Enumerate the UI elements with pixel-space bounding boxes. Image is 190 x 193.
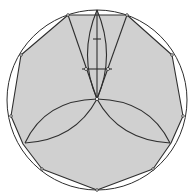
chord-point-left bbox=[85, 68, 88, 71]
vertex-point bbox=[41, 168, 44, 171]
vertex-point bbox=[96, 189, 99, 192]
construction-diagram bbox=[0, 0, 190, 193]
vertex-point bbox=[126, 14, 129, 17]
vertex-point bbox=[20, 54, 23, 57]
chord-point-right bbox=[107, 68, 110, 71]
center-point bbox=[95, 97, 98, 100]
vertex-point bbox=[67, 14, 70, 17]
vertex-point bbox=[171, 54, 174, 57]
vertex-point bbox=[10, 115, 13, 118]
vertex-point bbox=[152, 168, 155, 171]
vertex-point bbox=[182, 115, 185, 118]
